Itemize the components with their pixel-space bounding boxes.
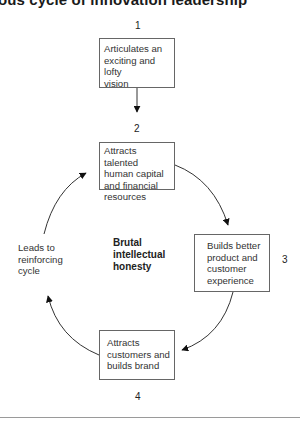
arrow-step2-to-step3 bbox=[175, 165, 228, 225]
arrow-step4-to-cycle-label bbox=[48, 296, 99, 355]
bottom-divider bbox=[0, 417, 300, 418]
arrow-step3-to-step4 bbox=[182, 292, 233, 350]
arrow-cycle-label-to-step2 bbox=[44, 173, 86, 234]
connector-layer bbox=[0, 0, 303, 422]
